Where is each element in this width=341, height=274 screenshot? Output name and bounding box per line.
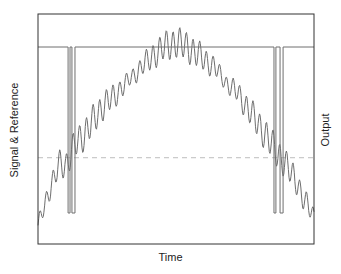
signal-line [38, 28, 314, 226]
x-axis-label: Time [0, 251, 341, 263]
chart-canvas [0, 0, 341, 274]
plot-area [38, 14, 314, 244]
y-axis-label-left: Signal & Reference [8, 83, 20, 178]
y-axis-label-right: Output [319, 113, 331, 146]
